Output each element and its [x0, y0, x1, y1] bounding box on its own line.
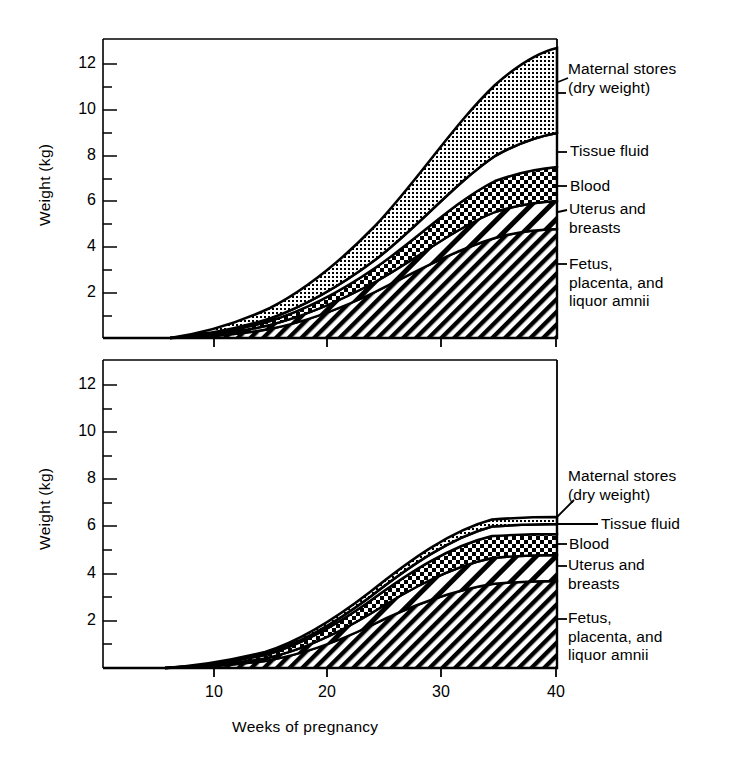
legend-tissue-fluid-top: Tissue fluid: [570, 142, 649, 161]
bottom-panel-y-ticks: [103, 385, 117, 644]
legend-maternal-stores-line2-top: (dry weight): [568, 79, 676, 98]
legend-tissue-fluid-bottom: Tissue fluid: [601, 515, 680, 534]
y-axis-title-top: Weight (kg): [36, 144, 54, 226]
y-tick-bottom-6: 6: [60, 516, 96, 534]
legend-maternal-stores-line2-bottom: (dry weight): [568, 486, 676, 505]
legend-uterus-line1-top: Uterus and: [569, 200, 646, 219]
legend-fetus-line2-top: placenta, and: [569, 274, 663, 293]
legend-uterus-line2-bottom: breasts: [568, 575, 645, 594]
legend-maternal-stores-line1-bottom: Maternal stores: [568, 467, 676, 486]
legend-uterus-bottom: Uterus and breasts: [568, 556, 645, 593]
top-panel-leader-lines: [558, 78, 568, 264]
y-tick-bottom-8: 8: [60, 469, 96, 487]
x-axis-title: Weeks of pregnancy: [232, 718, 378, 736]
legend-uterus-line2-top: breasts: [569, 219, 646, 238]
legend-fetus-line2-bottom: placenta, and: [568, 628, 662, 647]
y-tick-bottom-4: 4: [60, 564, 96, 582]
y-tick-top-12: 12: [60, 54, 96, 72]
legend-fetus-top: Fetus, placenta, and liquor amnii: [569, 255, 663, 311]
y-tick-bottom-10: 10: [60, 422, 96, 440]
y-tick-bottom-2: 2: [60, 611, 96, 629]
x-tick-30: 30: [421, 683, 461, 701]
legend-maternal-stores-line1-top: Maternal stores: [568, 60, 676, 79]
legend-maternal-stores-top: Maternal stores (dry weight): [568, 60, 676, 97]
legend-blood-top: Blood: [570, 177, 610, 196]
legend-uterus-line1-bottom: Uterus and: [568, 556, 645, 575]
weight-gain-figure: Weight (kg) 12 10 8 6 4 2 Maternal store…: [0, 0, 731, 774]
legend-uterus-top: Uterus and breasts: [569, 200, 646, 237]
y-tick-top-2: 2: [60, 283, 96, 301]
y-tick-top-8: 8: [60, 146, 96, 164]
legend-blood-bottom: Blood: [569, 535, 609, 554]
legend-fetus-line3-bottom: liquor amnii: [568, 646, 662, 665]
bottom-panel: [103, 360, 598, 677]
y-axis-title-bottom: Weight (kg): [36, 468, 54, 550]
x-tick-20: 20: [307, 683, 347, 701]
legend-fetus-line1-bottom: Fetus,: [568, 609, 662, 628]
legend-fetus-bottom: Fetus, placenta, and liquor amnii: [568, 609, 662, 665]
legend-maternal-stores-bottom: Maternal stores (dry weight): [568, 467, 676, 504]
y-tick-top-10: 10: [60, 100, 96, 118]
legend-fetus-line3-top: liquor amnii: [569, 292, 663, 311]
legend-fetus-line1-top: Fetus,: [569, 255, 663, 274]
top-panel-x-ticks: [214, 338, 556, 347]
y-tick-bottom-12: 12: [60, 375, 96, 393]
bottom-panel-x-ticks: [214, 668, 556, 677]
x-tick-10: 10: [194, 683, 234, 701]
y-tick-top-4: 4: [60, 237, 96, 255]
top-panel: [103, 39, 568, 347]
x-tick-40: 40: [536, 683, 576, 701]
top-panel-y-ticks: [103, 64, 117, 316]
y-tick-top-6: 6: [60, 191, 96, 209]
